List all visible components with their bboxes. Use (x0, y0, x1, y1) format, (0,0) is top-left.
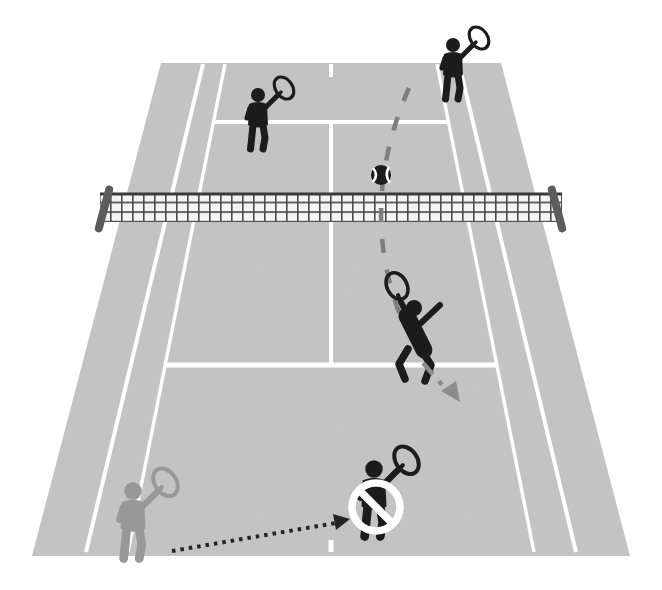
tennis-tactics-diagram (0, 0, 662, 590)
diagram-canvas (0, 0, 662, 590)
net-mesh (100, 193, 562, 222)
tennis-ball (371, 165, 391, 185)
